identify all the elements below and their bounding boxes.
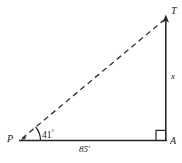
right-angle-marker-icon — [156, 130, 166, 140]
angle-arc-marker-icon — [36, 127, 41, 140]
vertex-label-t: T — [171, 6, 177, 16]
height-measure-label: x — [171, 72, 175, 81]
vertex-label-a: A — [170, 136, 176, 146]
dashed-tip-p-icon — [21, 136, 27, 140]
geometry-figure: T A P 41° 85′ x — [0, 0, 182, 163]
vertex-label-p: P — [7, 134, 13, 144]
angle-measure-value: 41 — [42, 130, 52, 140]
base-measure-label: 85′ — [79, 145, 90, 154]
triangle-drawing — [0, 0, 182, 163]
degree-symbol: ° — [52, 129, 54, 135]
angle-measure-label: 41° — [42, 129, 54, 141]
hypotenuse-segment-pt — [22, 20, 164, 139]
